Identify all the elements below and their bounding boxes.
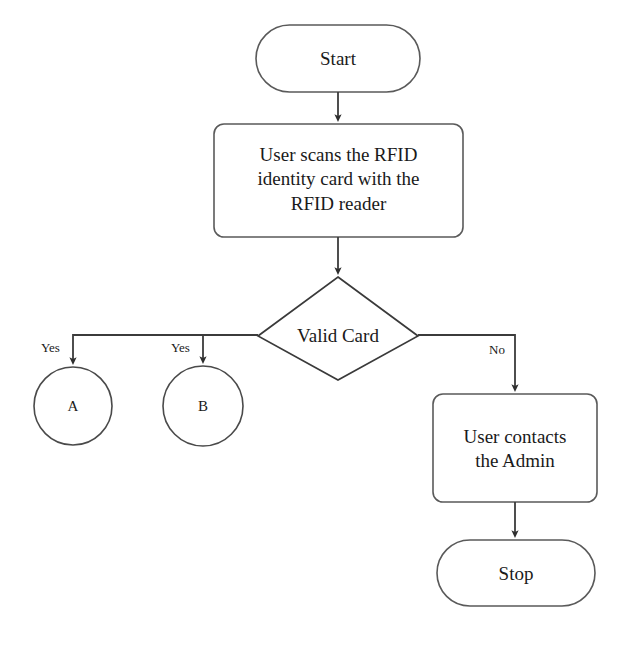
flowchart-vector-layer <box>0 0 629 650</box>
edge-decision-to-connector-a <box>73 335 258 361</box>
node-connector-a-shape <box>34 367 112 445</box>
node-decision-shape <box>258 277 418 380</box>
flowchart-canvas: Start User scans the RFID identity card … <box>0 0 629 650</box>
node-admin-shape <box>433 394 597 502</box>
node-scan-shape <box>214 124 463 237</box>
node-stop-shape <box>437 540 595 606</box>
node-start-shape <box>256 25 420 92</box>
node-connector-b-shape <box>163 366 243 446</box>
edge-decision-to-admin <box>418 335 515 388</box>
